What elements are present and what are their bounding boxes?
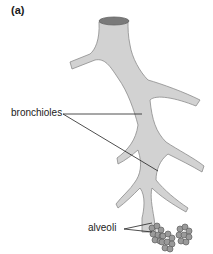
airway-lumen: [99, 17, 129, 25]
airway-tree: [70, 22, 204, 232]
alveoli-cluster-right: [176, 224, 192, 245]
alveoli-cluster-middle: [159, 231, 175, 252]
bronchioles-label: bronchioles: [11, 107, 62, 118]
alveoli-clusters: [149, 223, 192, 252]
alveoli-label: alveoli: [88, 222, 116, 233]
bronchial-tree-diagram: [0, 0, 213, 254]
